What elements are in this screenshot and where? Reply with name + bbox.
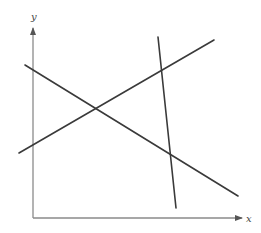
x-axis-label: x [246,213,252,224]
steep-line [158,37,176,208]
line-diagram: y x [0,0,261,233]
ascending-line [19,40,214,153]
y-axis-label: y [30,11,37,22]
